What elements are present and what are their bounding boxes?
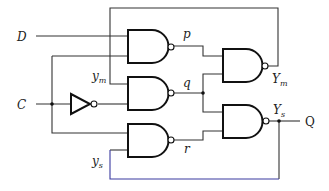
- nand-gate-ym: [223, 49, 268, 82]
- nand-gate-p: [128, 30, 174, 63]
- label-d: D: [16, 30, 27, 44]
- junction-dot-q: [201, 91, 205, 95]
- label-ym: ym: [91, 69, 107, 85]
- label-r: r: [184, 142, 191, 156]
- junction-dot-ys: [277, 119, 281, 123]
- label-output-q: Q: [305, 115, 315, 129]
- nand-gate-ys: [223, 105, 269, 138]
- label-Ym: Ym: [272, 72, 288, 88]
- logic-circuit-diagram: D C p q r ym ys Ym Ys Q: [0, 0, 329, 191]
- inverter-gate: [71, 94, 97, 114]
- junction-dot-c: [50, 102, 54, 106]
- nand-gate-q: [128, 77, 174, 110]
- label-ys: ys: [91, 154, 103, 170]
- label-Ys: Ys: [273, 103, 285, 119]
- label-p: p: [183, 27, 191, 41]
- label-q: q: [183, 76, 191, 90]
- label-c: C: [17, 98, 26, 112]
- nand-gate-r: [128, 124, 174, 157]
